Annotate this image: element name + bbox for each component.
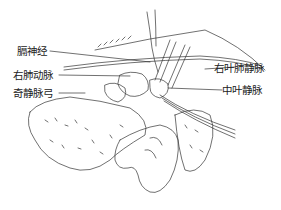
label-right-upper-pulmonary-vein: 右叶肺静脉 — [214, 62, 264, 74]
tissue-hatching-top — [98, 36, 131, 47]
label-azygos-arch: 奇静脉弓 — [13, 87, 53, 99]
figure-caption-faint — [14, 200, 269, 205]
vessel-loop — [147, 12, 158, 72]
leader-phrenic — [50, 51, 150, 62]
label-phrenic-nerve: 膈神经 — [17, 45, 47, 57]
label-right-pulmonary-artery: 右肺动脉 — [13, 69, 53, 81]
leader-mlv — [168, 88, 222, 90]
anatomical-illustration — [0, 0, 281, 210]
leader-rpa — [59, 75, 130, 76]
label-middle-lobe-vein: 中叶静脉 — [222, 84, 262, 96]
lung-lobe — [28, 97, 146, 170]
surgeon-hand — [115, 125, 178, 193]
